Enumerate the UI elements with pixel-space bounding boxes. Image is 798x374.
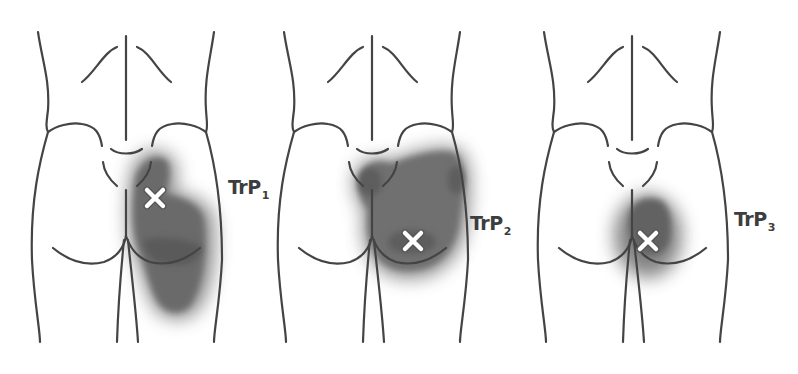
label-trp2-main: TrP xyxy=(470,212,503,234)
panel-trp3 xyxy=(538,32,728,342)
label-trp1-sub: 1 xyxy=(262,189,269,202)
trigger-point-diagram: TrP1 TrP2 TrP3 xyxy=(0,0,798,374)
body-outline xyxy=(538,32,728,342)
label-trp2-sub: 2 xyxy=(504,225,511,238)
panel-trp1 xyxy=(32,32,222,342)
panel-trp2 xyxy=(278,32,471,342)
label-trp1-main: TrP xyxy=(228,176,261,198)
label-trp3-main: TrP xyxy=(734,208,767,230)
label-trp2: TrP2 xyxy=(470,212,511,238)
label-trp3-sub: 3 xyxy=(768,221,775,234)
label-trp3: TrP3 xyxy=(734,208,775,234)
referred-pain-zone xyxy=(614,194,682,278)
referred-pain-zone xyxy=(128,151,216,320)
label-trp1: TrP1 xyxy=(228,176,269,202)
diagram-canvas xyxy=(0,0,798,374)
